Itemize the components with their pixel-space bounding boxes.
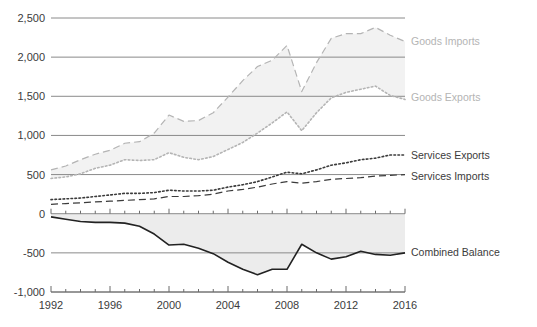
- y-axis-tick-label: 500: [27, 169, 45, 181]
- x-axis-tick-label: 2016: [393, 299, 417, 311]
- y-axis-tick-label: -500: [23, 247, 45, 259]
- legend-label-goods-imports: Goods Imports: [411, 35, 480, 47]
- x-axis-tick-label: 2012: [334, 299, 358, 311]
- y-axis-tick-label: 2,000: [17, 51, 45, 63]
- y-axis-tick-label: 0: [39, 208, 45, 220]
- x-axis-tick-label: 2000: [157, 299, 181, 311]
- y-axis-tick-label: 1,000: [17, 129, 45, 141]
- goods-gap-shading: [51, 27, 405, 178]
- chart-container: 2,5002,0001,5001,0005000-500-1,000199219…: [0, 0, 537, 327]
- x-axis-tick-label: 2008: [275, 299, 299, 311]
- legend-label-goods-exports: Goods Exports: [411, 91, 480, 103]
- y-axis-tick-label: 2,500: [17, 12, 45, 24]
- x-axis-tick-label: 1992: [39, 299, 63, 311]
- y-axis-tick-label: 1,500: [17, 90, 45, 102]
- series-line-services-imports: [51, 175, 405, 205]
- legend-label-services-imports: Services Imports: [411, 170, 489, 182]
- y-axis-tick-label: -1,000: [14, 286, 45, 298]
- x-axis-tick-label: 1996: [98, 299, 122, 311]
- x-axis-tick-label: 2004: [216, 299, 240, 311]
- legend-label-services-exports: Services Exports: [411, 149, 490, 161]
- line-chart: 2,5002,0001,5001,0005000-500-1,000199219…: [0, 0, 537, 327]
- legend-label-combined-balance: Combined Balance: [411, 246, 500, 258]
